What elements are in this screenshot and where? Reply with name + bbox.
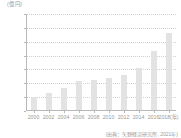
x-tick-mark <box>79 111 80 113</box>
x-tick-label: 2008 <box>88 114 100 120</box>
y-tick-mark <box>24 14 26 15</box>
x-tick-mark <box>154 111 155 113</box>
bar-slot <box>41 14 56 111</box>
bar <box>91 80 97 111</box>
x-tick-label: 2018(年) <box>159 114 179 120</box>
bar <box>61 88 67 111</box>
bar <box>106 78 112 111</box>
y-tick-mark <box>24 97 26 98</box>
bar-slot <box>146 14 161 111</box>
x-tick-label: 2006 <box>73 114 85 120</box>
bar-slot <box>131 14 146 111</box>
x-tick-mark <box>139 111 140 113</box>
plot-area: 05001,0001,5002,0002,5003,0003,500 20002… <box>26 14 176 111</box>
bar-chart: (億 円) 05001,0001,5002,0002,5003,0003,500… <box>0 0 181 138</box>
bar-slot <box>56 14 71 111</box>
y-axis-line <box>26 14 27 111</box>
bar <box>46 93 52 111</box>
bar <box>76 81 82 111</box>
x-tick-mark <box>94 111 95 113</box>
x-tick-label: 2000 <box>28 114 40 120</box>
x-tick-label: 2004 <box>58 114 70 120</box>
bar <box>136 68 142 111</box>
bar-slot <box>116 14 131 111</box>
bar <box>31 97 37 111</box>
x-tick-label: 2012 <box>118 114 130 120</box>
x-tick-mark <box>169 111 170 113</box>
y-tick-mark <box>24 83 26 84</box>
bar-series <box>26 14 176 111</box>
x-tick-mark <box>49 111 50 113</box>
y-tick-mark <box>24 56 26 57</box>
y-tick-mark <box>24 111 26 112</box>
y-tick-mark <box>24 69 26 70</box>
bar <box>151 51 157 111</box>
x-tick-label: 2014 <box>133 114 145 120</box>
x-tick-mark <box>124 111 125 113</box>
bar <box>121 75 127 111</box>
x-tick-mark <box>64 111 65 113</box>
x-tick-label: 2010 <box>103 114 115 120</box>
y-tick-mark <box>24 42 26 43</box>
x-tick-mark <box>109 111 110 113</box>
y-tick-mark <box>24 28 26 29</box>
x-tick-mark <box>34 111 35 113</box>
bar-slot <box>26 14 41 111</box>
bar-slot <box>86 14 101 111</box>
bar <box>166 33 172 111</box>
bar-slot <box>71 14 86 111</box>
y-axis-unit-label: (億 円) <box>7 1 22 7</box>
x-tick-label: 2002 <box>43 114 55 120</box>
bar-slot <box>161 14 176 111</box>
source-note: (出典：矢野経済研究所, 2021年) <box>106 131 178 137</box>
bar-slot <box>101 14 116 111</box>
